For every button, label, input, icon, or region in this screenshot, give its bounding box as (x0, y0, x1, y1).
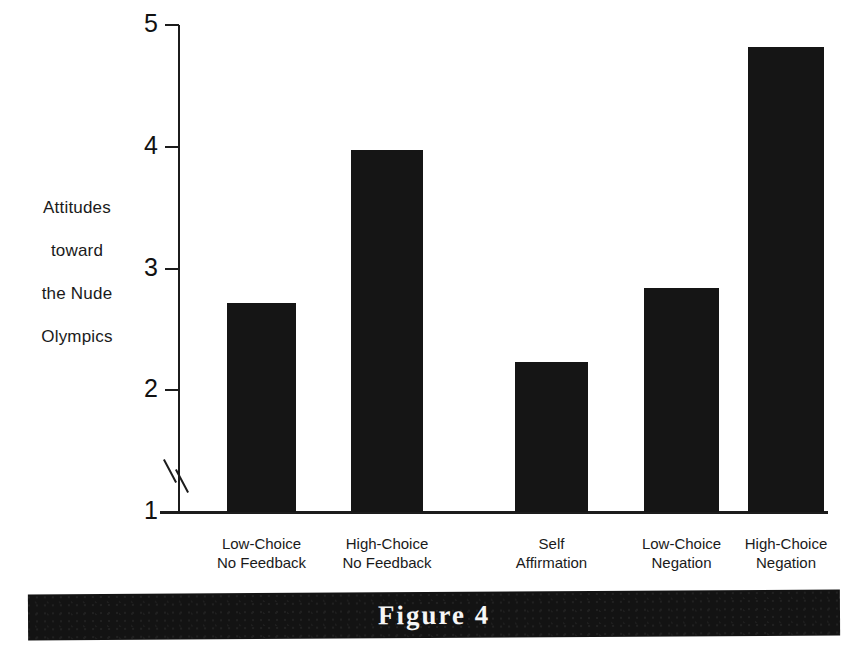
x-category-label-line-2: Negation (716, 553, 856, 572)
x-category-label-line-1: High-Choice (716, 534, 856, 553)
y-tick-3 (165, 268, 179, 270)
y-tick-label-1: 1 (128, 498, 158, 523)
x-category-label: SelfAffirmation (482, 534, 622, 572)
y-tick-2 (165, 389, 179, 391)
x-category-label-line-1: Low-Choice (192, 534, 332, 553)
bar (227, 303, 296, 512)
bar (644, 288, 719, 512)
plot-area: 54321 Low-ChoiceNo FeedbackHigh-ChoiceNo… (0, 0, 868, 590)
axis-break-icon (163, 458, 195, 502)
x-category-label-line-1: High-Choice (317, 534, 457, 553)
y-tick-5 (165, 24, 179, 26)
x-category-label-line-2: No Feedback (317, 553, 457, 572)
x-category-label-line-2: Affirmation (482, 553, 622, 572)
figure-caption-banner: Figure 4 (28, 590, 840, 641)
figure-page: Attitudes toward the Nude Olympics 54321… (0, 0, 868, 658)
x-category-label-line-2: No Feedback (192, 553, 332, 572)
y-tick-label-2: 2 (128, 376, 158, 401)
figure-caption-text: Figure 4 (378, 599, 490, 631)
y-tick-label-3: 3 (128, 255, 158, 280)
y-tick-1 (165, 511, 179, 513)
x-category-label: Low-ChoiceNo Feedback (192, 534, 332, 572)
x-category-label: High-ChoiceNegation (716, 534, 856, 572)
x-category-label-line-1: Self (482, 534, 622, 553)
x-category-label: High-ChoiceNo Feedback (317, 534, 457, 572)
bar (351, 150, 423, 512)
y-tick-label-5: 5 (128, 11, 158, 36)
bar (515, 362, 588, 512)
bar (748, 47, 824, 512)
y-tick-4 (165, 146, 179, 148)
y-tick-label-4: 4 (128, 133, 158, 158)
